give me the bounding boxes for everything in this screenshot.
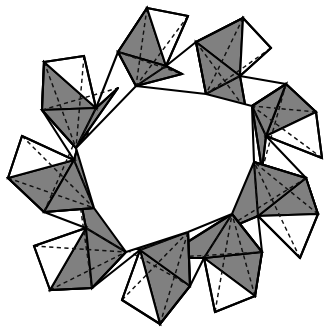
kaleidocycle-drawing — [0, 0, 336, 330]
kaleidocycle-figure — [0, 0, 336, 330]
